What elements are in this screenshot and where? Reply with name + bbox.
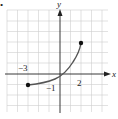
x-axis-label: x (111, 69, 116, 79)
endpoint-right (79, 41, 83, 45)
bullet-marker: • (0, 0, 3, 10)
tick-label-neg1: −1 (46, 83, 56, 93)
grid (7, 10, 108, 112)
tick-label-2: 2 (77, 78, 82, 88)
y-axis-label: y (56, 0, 61, 9)
tick-label-neg3: −3 (18, 63, 28, 73)
x-axis-arrow-icon (104, 72, 111, 77)
curve (28, 43, 81, 85)
endpoint-left (26, 83, 30, 87)
graph: • y x −3 −1 2 (0, 0, 118, 119)
